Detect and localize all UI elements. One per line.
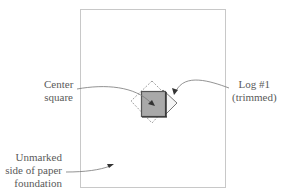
label-line: Center	[44, 78, 73, 91]
label-line: side of paper	[5, 164, 62, 177]
label-log-1: Log #1 (trimmed)	[232, 78, 277, 104]
label-line: square	[44, 91, 73, 104]
label-line: Unmarked	[5, 151, 62, 164]
label-line: (trimmed)	[232, 91, 277, 104]
label-line: Log #1	[232, 78, 277, 91]
label-line: foundation	[5, 177, 62, 190]
label-center-square: Center square	[44, 78, 73, 104]
label-unmarked-side: Unmarked side of paper foundation	[5, 151, 62, 190]
